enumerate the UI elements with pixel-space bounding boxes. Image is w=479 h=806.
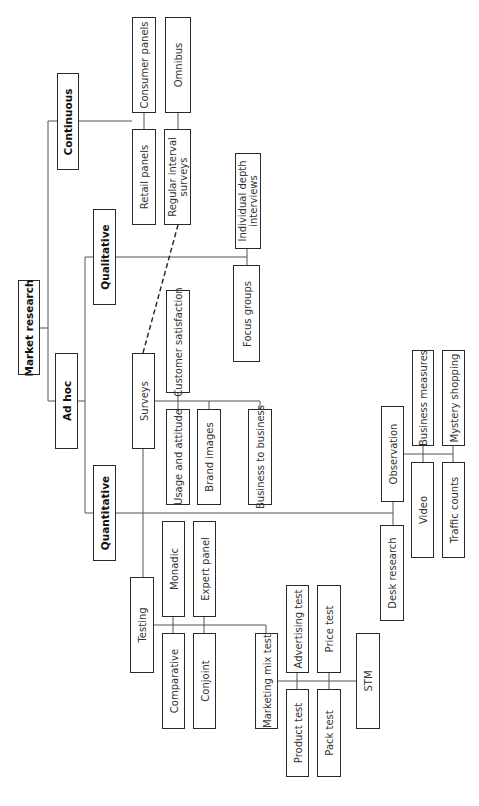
node-label: Usage and attitude bbox=[173, 409, 184, 505]
node-stm: STM bbox=[356, 633, 380, 729]
node-brand-images: Brand images bbox=[197, 409, 221, 505]
node-label: Surveys bbox=[138, 381, 149, 421]
node-pack-test: Pack test bbox=[317, 689, 341, 777]
node-retail-panels: Retail panels bbox=[132, 129, 156, 225]
node-usage-and-attitude: Usage and attitude bbox=[166, 409, 190, 505]
node-expert-panel: Expert panel bbox=[193, 521, 216, 617]
node-business-measures: Business measures bbox=[412, 350, 434, 446]
node-traffic-counts: Traffic counts bbox=[442, 462, 465, 558]
node-label: Conjoint bbox=[199, 660, 210, 701]
node-label: Observation bbox=[387, 424, 398, 485]
market-research-tree-diagram: Market researchContinuousAd hocQualitati… bbox=[0, 0, 479, 806]
node-regular-interval-surveys: Regular intervalsurveys bbox=[164, 129, 191, 225]
node-label: Brand images bbox=[204, 422, 215, 491]
node-business-to-business: Business to business bbox=[248, 409, 272, 505]
node-consumer-panels: Consumer panels bbox=[132, 17, 156, 113]
node-market-research: Market research bbox=[18, 280, 40, 375]
node-label: Comparative bbox=[168, 649, 179, 713]
node-label: Customer satisfaction bbox=[173, 287, 184, 396]
node-label: Qualitative bbox=[99, 224, 110, 289]
node-label: Market research bbox=[24, 279, 35, 376]
node-label: Expert panel bbox=[199, 537, 210, 601]
node-label: Price test bbox=[324, 606, 335, 653]
node-testing: Testing bbox=[130, 577, 154, 673]
node-conjoint: Conjoint bbox=[193, 633, 216, 729]
node-label: Product test bbox=[292, 703, 303, 763]
connector-line bbox=[154, 625, 266, 633]
node-label: Mystery shopping bbox=[448, 354, 459, 443]
node-comparative: Comparative bbox=[162, 633, 185, 729]
node-mystery-shopping: Mystery shopping bbox=[442, 350, 465, 446]
connector-line bbox=[155, 401, 260, 409]
node-monadic: Monadic bbox=[162, 521, 185, 617]
node-ad-hoc: Ad hoc bbox=[55, 353, 78, 449]
node-marketing-mix-test: Marketing mix test bbox=[255, 633, 278, 729]
node-label: Business measures bbox=[418, 350, 429, 446]
node-label: Continuous bbox=[63, 88, 74, 155]
node-label: Retail panels bbox=[139, 145, 150, 209]
node-label: Business to business bbox=[255, 405, 266, 509]
node-label: Ad hoc bbox=[61, 381, 72, 421]
node-qualitative: Qualitative bbox=[93, 209, 116, 305]
node-desk-research: Desk research bbox=[380, 525, 404, 621]
node-product-test: Product test bbox=[286, 689, 309, 777]
node-observation: Observation bbox=[381, 406, 404, 502]
node-video: Video bbox=[411, 462, 434, 558]
node-label: Traffic counts bbox=[448, 477, 459, 544]
node-continuous: Continuous bbox=[57, 73, 79, 170]
node-surveys: Surveys bbox=[132, 353, 155, 449]
node-label: Omnibus bbox=[173, 43, 184, 88]
node-label: Focus groups bbox=[241, 281, 252, 347]
node-label: Testing bbox=[137, 607, 148, 642]
node-label: Pack test bbox=[324, 710, 335, 755]
node-individual-depth-interviews: Individual depthinterviews bbox=[235, 153, 261, 249]
node-label: Consumer panels bbox=[139, 21, 150, 108]
node-omnibus: Omnibus bbox=[165, 17, 191, 113]
node-label: Quantitative bbox=[99, 476, 110, 550]
node-label: Video bbox=[417, 496, 428, 524]
node-customer-satisfaction: Customer satisfaction bbox=[166, 290, 190, 393]
node-label: Regular intervalsurveys bbox=[167, 137, 189, 217]
node-label: Individual depthinterviews bbox=[237, 161, 259, 242]
node-label: Desk research bbox=[387, 537, 398, 608]
node-price-test: Price test bbox=[317, 585, 341, 673]
node-label: Advertising test bbox=[292, 590, 303, 669]
connector-line bbox=[85, 257, 93, 513]
node-label: Marketing mix test bbox=[261, 634, 272, 728]
node-quantitative: Quantitative bbox=[93, 465, 116, 561]
node-advertising-test: Advertising test bbox=[286, 585, 309, 673]
node-label: Monadic bbox=[168, 548, 179, 590]
node-label: STM bbox=[363, 670, 374, 691]
node-focus-groups: Focus groups bbox=[233, 265, 260, 362]
